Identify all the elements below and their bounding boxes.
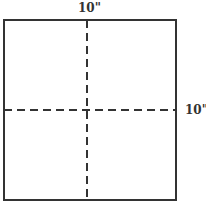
square-diagram [0,0,206,215]
top-dimension-label: 10" [78,2,101,14]
right-dimension-label: 10" [185,104,206,116]
